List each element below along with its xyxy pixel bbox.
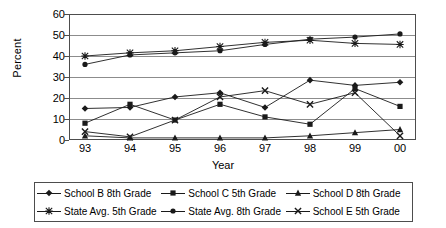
legend-label: State Avg. 8th Grade bbox=[188, 206, 281, 217]
legend-label: State Avg. 5th Grade bbox=[64, 206, 157, 217]
legend-item-state-avg-8th[interactable]: State Avg. 8th Grade bbox=[161, 205, 285, 217]
series-school-d-8th-grade bbox=[82, 126, 403, 140]
x-tick-label-97: 97 bbox=[245, 143, 285, 154]
legend-item-state-avg-5th[interactable]: State Avg. 5th Grade bbox=[37, 205, 161, 217]
x-tick-label-98: 98 bbox=[290, 143, 330, 154]
diamond-marker-icon bbox=[37, 187, 61, 199]
x-tick-label-95: 95 bbox=[155, 143, 195, 154]
legend-label: School E 5th Grade bbox=[313, 206, 400, 217]
x-tick-label-00: 00 bbox=[380, 143, 420, 154]
legend-item-school-e-5th[interactable]: School E 5th Grade bbox=[286, 205, 410, 217]
cross-marker-icon bbox=[286, 205, 310, 217]
x-axis-title: Year bbox=[0, 159, 446, 171]
x-tick-label-94: 94 bbox=[110, 143, 150, 154]
x-tick-label-99: 99 bbox=[335, 143, 375, 154]
legend-item-school-d-8th[interactable]: School D 8th Grade bbox=[286, 187, 410, 199]
circle-marker-icon bbox=[161, 205, 185, 217]
chart-figure: Percent 60 50 40 30 20 10 0 93 94 95 96 … bbox=[0, 0, 446, 228]
chart-legend: School B 8th Grade School C 5th Grade Sc… bbox=[34, 182, 413, 222]
chart-plot-region: Percent 60 50 40 30 20 10 0 93 94 95 96 … bbox=[0, 0, 446, 172]
legend-label: School D 8th Grade bbox=[313, 188, 401, 199]
x-tick-label-93: 93 bbox=[65, 143, 105, 154]
legend-item-school-c-5th[interactable]: School C 5th Grade bbox=[161, 187, 285, 199]
legend-label: School C 5th Grade bbox=[188, 188, 276, 199]
square-marker-icon bbox=[161, 187, 185, 199]
legend-label: School B 8th Grade bbox=[64, 188, 151, 199]
triangle-marker-icon bbox=[286, 187, 310, 199]
x-tick-label-96: 96 bbox=[200, 143, 240, 154]
asterisk-marker-icon bbox=[37, 205, 61, 217]
legend-item-school-b-8th[interactable]: School B 8th Grade bbox=[37, 187, 161, 199]
